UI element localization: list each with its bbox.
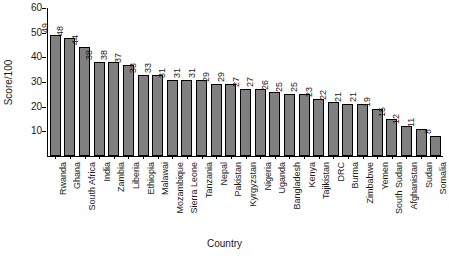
- bar-value-label: 27: [231, 77, 240, 87]
- x-tick-label: Somalia: [439, 162, 448, 195]
- bar-value-label: 26: [261, 80, 270, 90]
- x-tick-mark: [143, 156, 144, 159]
- x-tick-mark: [406, 156, 407, 159]
- bar-value-label: 33: [129, 63, 138, 73]
- x-tick-mark: [348, 156, 349, 159]
- x-tick-label: Nepal: [220, 162, 229, 186]
- x-tick-mark: [114, 156, 115, 159]
- x-tick-mark: [304, 156, 305, 159]
- x-tick-label: Afghanistan: [410, 162, 419, 210]
- x-tick-label: Zambia: [117, 162, 126, 192]
- x-axis-title: Country: [0, 238, 449, 249]
- bar-value-label: 19: [363, 97, 372, 107]
- x-tick-mark: [202, 156, 203, 159]
- x-tick-label: South Africa: [88, 162, 97, 211]
- bar[interactable]: [225, 84, 236, 156]
- bar[interactable]: [240, 89, 251, 156]
- y-tick-mark: [42, 57, 46, 58]
- x-tick-mark: [172, 156, 173, 159]
- bar-value-label: 25: [290, 82, 299, 92]
- x-tick-mark: [392, 156, 393, 159]
- bar[interactable]: [313, 99, 324, 156]
- bar-value-label: 31: [158, 68, 167, 78]
- x-tick-mark: [421, 156, 422, 159]
- y-tick-mark: [42, 107, 46, 108]
- x-tick-mark: [436, 156, 437, 159]
- x-tick-label: DRC: [337, 162, 346, 182]
- x-tick-mark: [289, 156, 290, 159]
- bar[interactable]: [64, 38, 75, 156]
- bar-value-label: 22: [319, 90, 328, 100]
- x-tick-label: Kenya: [308, 162, 317, 188]
- x-tick-mark: [377, 156, 378, 159]
- plot-area: 4948443838373333313131292927272625252322…: [48, 8, 443, 156]
- y-tick-label: 60: [31, 3, 42, 13]
- bar[interactable]: [196, 80, 207, 156]
- x-tick-label: Ethiopia: [147, 162, 156, 195]
- bar[interactable]: [328, 102, 339, 156]
- bar-value-label: 31: [188, 68, 197, 78]
- bar[interactable]: [430, 136, 441, 156]
- y-tick-label: 30: [31, 77, 42, 87]
- bar[interactable]: [255, 89, 266, 156]
- bar[interactable]: [94, 62, 105, 156]
- bar[interactable]: [211, 84, 222, 156]
- bar[interactable]: [79, 47, 90, 156]
- bar[interactable]: [108, 62, 119, 156]
- bar-value-label: 23: [305, 87, 314, 97]
- x-tick-label: Pakistan: [234, 162, 243, 197]
- bar-value-label: 29: [217, 72, 226, 82]
- x-tick-mark: [99, 156, 100, 159]
- y-tick-mark: [42, 82, 46, 83]
- bar[interactable]: [342, 104, 353, 156]
- x-tick-label: Ghana: [73, 162, 82, 189]
- bar[interactable]: [123, 65, 134, 156]
- bar-value-label: 38: [100, 50, 109, 60]
- bar-value-label: 25: [275, 82, 284, 92]
- x-tick-mark: [216, 156, 217, 159]
- x-tick-label: Liberia: [132, 162, 141, 189]
- x-tick-label: Uganda: [278, 162, 287, 194]
- x-tick-mark: [55, 156, 56, 159]
- x-tick-label: South Sudan: [395, 162, 404, 214]
- x-tick-mark: [187, 156, 188, 159]
- x-tick-label: Tajikistan: [322, 162, 331, 199]
- bar[interactable]: [386, 119, 397, 156]
- x-tick-label: Malawai: [161, 162, 170, 195]
- bar[interactable]: [357, 104, 368, 156]
- bar[interactable]: [284, 94, 295, 156]
- bar[interactable]: [50, 35, 61, 156]
- bar-value-label: 29: [202, 72, 211, 82]
- x-tick-label: Yemen: [381, 162, 390, 190]
- x-tick-label: Tanzania: [205, 162, 214, 198]
- x-tick-label: Bangladesh: [293, 162, 302, 210]
- bar-value-label: 27: [246, 77, 255, 87]
- bar-value-label: 37: [114, 53, 123, 63]
- bar[interactable]: [138, 75, 149, 156]
- bar[interactable]: [401, 126, 412, 156]
- bar-value-label: 38: [85, 50, 94, 60]
- bar[interactable]: [299, 94, 310, 156]
- bar-value-label: 49: [41, 23, 50, 33]
- bar[interactable]: [181, 80, 192, 156]
- x-tick-mark: [85, 156, 86, 159]
- bar-value-label: 12: [392, 114, 401, 124]
- bar[interactable]: [167, 80, 178, 156]
- bar-value-label: 33: [144, 63, 153, 73]
- x-tick-mark: [319, 156, 320, 159]
- x-tick-label: Sierra Leone: [190, 162, 199, 214]
- y-tick-label: 20: [31, 102, 42, 112]
- bar[interactable]: [269, 92, 280, 156]
- bar-chart-figure: Score/100 102030405060 49484438383733333…: [0, 0, 449, 272]
- x-tick-label: Zimbabwe: [366, 162, 375, 204]
- y-tick-label: 40: [31, 52, 42, 62]
- bar-value-label: 31: [173, 68, 182, 78]
- x-tick-label: Sudan: [425, 162, 434, 188]
- x-tick-mark: [333, 156, 334, 159]
- bar-value-label: 11: [407, 118, 416, 127]
- y-tick-label: 10: [31, 126, 42, 136]
- x-tick-label: India: [103, 162, 112, 182]
- x-tick-mark: [246, 156, 247, 159]
- bar[interactable]: [152, 75, 163, 156]
- bar-value-label: 21: [334, 92, 343, 102]
